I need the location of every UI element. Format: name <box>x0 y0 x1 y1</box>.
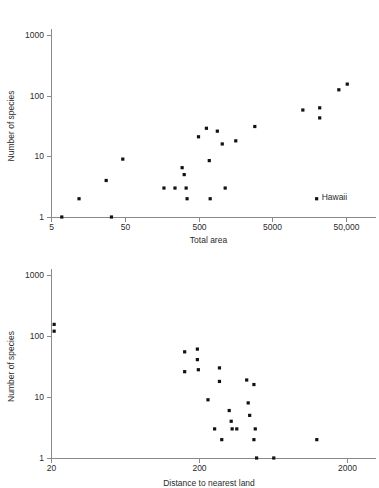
data-point <box>315 197 318 200</box>
scatter-plot-distance: 1101001000202002000Distance to nearest l… <box>0 244 379 488</box>
y-tick-label: 1 <box>39 212 44 222</box>
y-tick-label: 100 <box>30 331 44 341</box>
data-point <box>196 347 199 350</box>
data-point <box>53 323 56 326</box>
y-tick-label: 10 <box>35 151 45 161</box>
data-point <box>346 83 349 86</box>
x-tick-label: 5000 <box>263 222 282 232</box>
x-tick-label: 50,000 <box>334 222 360 232</box>
data-point <box>197 368 200 371</box>
data-point <box>216 130 219 133</box>
y-tick-label: 100 <box>30 91 44 101</box>
data-point <box>208 159 211 162</box>
data-point <box>183 173 186 176</box>
data-point <box>105 179 108 182</box>
data-point <box>224 186 227 189</box>
y-tick-label: 1000 <box>25 270 44 280</box>
data-point <box>228 409 231 412</box>
data-point <box>230 420 233 423</box>
data-point <box>220 438 223 441</box>
chart-species-vs-area: 1101001000550500500050,000Total areaNumb… <box>0 0 379 244</box>
x-tick-label: 500 <box>192 222 206 232</box>
data-point <box>253 125 256 128</box>
data-point <box>254 427 257 430</box>
data-point <box>301 108 304 111</box>
data-point <box>110 215 113 218</box>
x-tick-label: 200 <box>192 463 206 473</box>
y-tick-label: 1 <box>39 453 44 463</box>
data-point <box>173 186 176 189</box>
data-point <box>121 158 124 161</box>
data-point <box>60 215 63 218</box>
data-point <box>234 139 237 142</box>
data-point <box>206 398 209 401</box>
data-point <box>318 116 321 119</box>
data-point <box>185 197 188 200</box>
x-tick-label: 50 <box>121 222 131 232</box>
chart-species-vs-distance: 1101001000202002000Distance to nearest l… <box>0 244 379 488</box>
data-point <box>197 135 200 138</box>
data-point <box>181 166 184 169</box>
data-point <box>337 88 340 91</box>
data-point <box>245 378 248 381</box>
data-point <box>255 456 258 459</box>
x-tick-label: 2000 <box>338 463 357 473</box>
data-point <box>248 414 251 417</box>
data-point <box>318 106 321 109</box>
data-point <box>272 456 275 459</box>
data-point <box>235 427 238 430</box>
y-tick-label: 1000 <box>25 30 44 40</box>
data-point <box>221 142 224 145</box>
data-point <box>53 330 56 333</box>
data-point <box>252 438 255 441</box>
data-point <box>213 427 216 430</box>
data-point <box>77 197 80 200</box>
data-point <box>209 197 212 200</box>
data-point <box>205 127 208 130</box>
x-axis-title: Distance to nearest land <box>163 478 255 488</box>
y-axis-title: Number of species <box>6 91 16 162</box>
y-tick-label: 10 <box>35 392 45 402</box>
data-point <box>247 401 250 404</box>
y-axis-title: Number of species <box>6 331 16 402</box>
data-point <box>183 370 186 373</box>
data-point <box>315 438 318 441</box>
scatter-plot-area: 1101001000550500500050,000Total areaNumb… <box>0 0 379 244</box>
x-axis-title: Total area <box>190 235 228 244</box>
data-point <box>231 427 234 430</box>
point-annotation: Hawaii <box>322 192 348 202</box>
x-tick-label: 5 <box>49 222 54 232</box>
data-point <box>218 380 221 383</box>
data-point <box>183 350 186 353</box>
data-point <box>196 358 199 361</box>
data-point <box>252 383 255 386</box>
data-point <box>162 186 165 189</box>
data-point <box>218 366 221 369</box>
data-point <box>185 186 188 189</box>
x-tick-label: 20 <box>47 463 57 473</box>
